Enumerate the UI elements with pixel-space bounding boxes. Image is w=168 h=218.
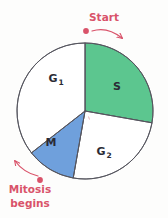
start-label: Start: [89, 11, 119, 23]
annotation-start: Start: [83, 11, 122, 38]
start-arrow-icon: [92, 30, 122, 38]
annotation-mitosis: Mitosis begins: [9, 161, 51, 209]
phase-label-s-text: S: [113, 80, 121, 93]
mitosis-label-line1: Mitosis: [9, 183, 51, 195]
phase-label-g2-subscript: 2: [106, 151, 111, 160]
cell-cycle-svg: G 1 S G 2 M Start Mitosis begins: [0, 0, 168, 218]
mitosis-arrow-icon: [15, 161, 38, 176]
phase-label-g1-subscript: 1: [58, 78, 63, 87]
phase-label-s: S: [113, 80, 121, 93]
cell-cycle-diagram: G 1 S G 2 M Start Mitosis begins: [0, 0, 168, 218]
phase-label-g2-text: G: [96, 145, 105, 158]
phase-label-g1-text: G: [48, 72, 57, 85]
mitosis-label-line2: begins: [10, 197, 49, 209]
phase-label-m: M: [46, 136, 57, 149]
phase-label-m-text: M: [46, 136, 57, 149]
start-marker-dot: [83, 28, 89, 34]
mitosis-marker-dot: [37, 177, 43, 183]
